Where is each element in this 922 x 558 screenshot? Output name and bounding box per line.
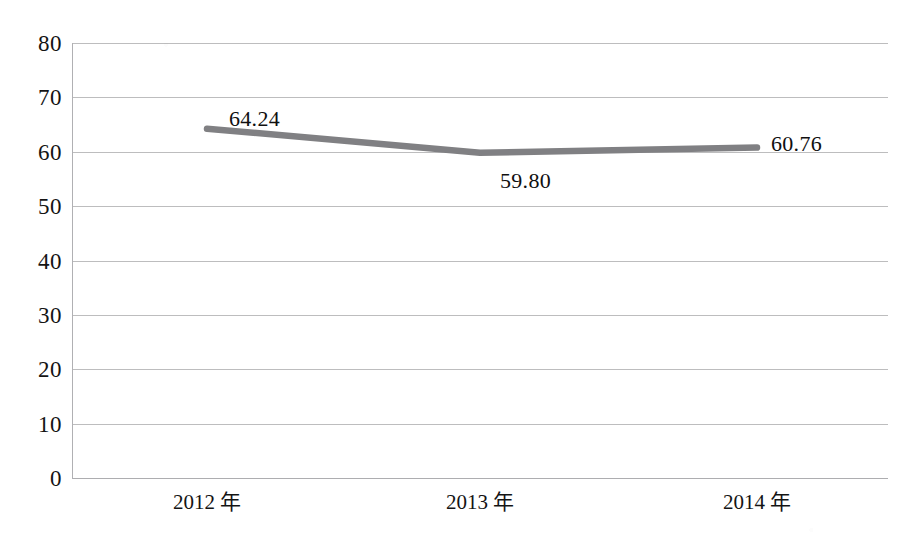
y-tick-label-50: 50 — [2, 195, 62, 218]
data-label-2014: 60.76 — [771, 133, 822, 155]
x-tick-label-2013: 2013 年 — [446, 492, 514, 513]
gridline-20 — [72, 369, 888, 370]
x-tick-label-2014: 2014 年 — [723, 492, 791, 513]
plot-area — [72, 43, 888, 478]
y-tick-label-70: 70 — [2, 86, 62, 109]
gridline-80 — [72, 43, 888, 44]
y-tick-label-20: 20 — [2, 358, 62, 381]
gridline-60 — [72, 152, 888, 153]
gridline-40 — [72, 261, 888, 262]
x-tick-label-2012: 2012 年 — [173, 492, 241, 513]
y-tick-label-0: 0 — [2, 467, 62, 490]
y-tick-label-10: 10 — [2, 413, 62, 436]
y-axis-line — [72, 43, 73, 479]
line-chart: 80 70 60 50 40 30 20 10 0 64.24 59.80 60… — [0, 0, 922, 558]
y-tick-label-40: 40 — [2, 250, 62, 273]
y-axis-tick-labels: 80 70 60 50 40 30 20 10 0 — [0, 0, 62, 558]
y-tick-label-60: 60 — [2, 141, 62, 164]
gridline-70 — [72, 97, 888, 98]
gridline-50 — [72, 206, 888, 207]
data-label-2012: 64.24 — [229, 108, 280, 130]
gridline-10 — [72, 424, 888, 425]
y-tick-label-30: 30 — [2, 304, 62, 327]
y-tick-label-80: 80 — [2, 32, 62, 55]
data-label-2013: 59.80 — [500, 170, 551, 192]
x-axis-baseline — [72, 478, 888, 479]
gridline-30 — [72, 315, 888, 316]
